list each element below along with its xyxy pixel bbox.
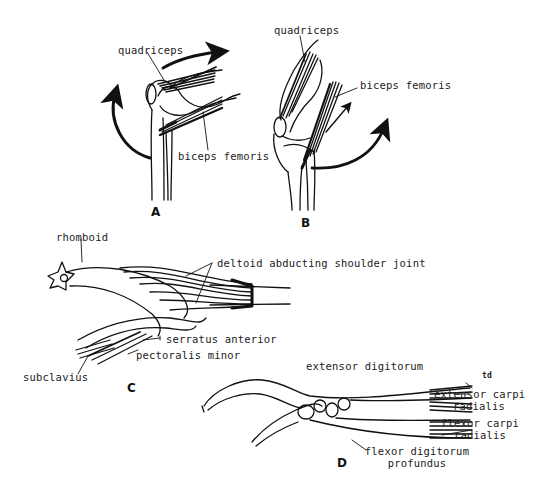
- label-c-deltoid: deltoid abducting shoulder joint: [217, 257, 426, 269]
- label-c-subclavius: subclavius: [23, 371, 88, 383]
- label-b-biceps-femoris: biceps femoris: [360, 79, 451, 91]
- label-d-extensor-carpi-line2: radialis: [434, 400, 524, 412]
- panel-label-b: B: [301, 216, 310, 230]
- label-d-td-mark: td: [482, 371, 492, 380]
- panel-label-c: C: [127, 381, 136, 395]
- label-d-flexor-carpi-line2: radialis: [440, 429, 520, 441]
- label-c-serratus-anterior: serratus anterior: [166, 333, 277, 345]
- label-d-flexor-carpi-radialis: flexor carpi radialis: [440, 417, 520, 441]
- panel-d-drawing: [202, 380, 472, 450]
- panel-b-drawing: [274, 36, 384, 210]
- label-d-extensor-carpi-line1: extensor carpi: [434, 388, 524, 400]
- label-c-pectoralis-minor: pectoralis minor: [136, 349, 240, 361]
- label-a-biceps-femoris: biceps femoris: [178, 150, 269, 162]
- label-d-extensor-carpi-radialis: extensor carpi radialis: [434, 388, 524, 412]
- label-d-flexor-digitorum-line1: flexor digitorum: [362, 445, 472, 457]
- label-c-rhomboid: rhomboid: [56, 231, 108, 243]
- label-d-flexor-digitorum-profundus: flexor digitorum profundus: [362, 445, 472, 469]
- panel-label-a: A: [151, 205, 160, 219]
- label-a-quadriceps: quadriceps: [118, 44, 183, 56]
- label-d-extensor-digitorum: extensor digitorum: [306, 360, 423, 372]
- label-d-flexor-carpi-line1: flexor carpi: [440, 417, 520, 429]
- label-d-flexor-digitorum-line2: profundus: [362, 457, 472, 469]
- panel-a-drawing: [113, 52, 240, 200]
- panel-label-d: D: [337, 456, 347, 470]
- anatomy-diagram: quadriceps biceps femoris A quadriceps b…: [0, 0, 535, 493]
- label-b-quadriceps: quadriceps: [274, 24, 339, 36]
